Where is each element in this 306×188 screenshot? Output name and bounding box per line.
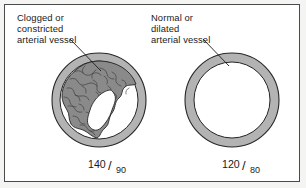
figure-container: Clogged or constricted arterial vessel 1… (0, 0, 306, 188)
normal-vessel-illustration (185, 39, 279, 147)
normal-systolic: 120 (222, 158, 240, 170)
clogged-diastolic: 90 (116, 165, 126, 175)
normal-blood-pressure: 120 / 80 (222, 158, 260, 175)
normal-label-line-2: dilated (151, 23, 179, 34)
normal-label: Normal or dilated arterial vessel (151, 12, 210, 45)
diagram-svg: Clogged or constricted arterial vessel 1… (0, 0, 306, 188)
normal-bp-separator: / (242, 158, 246, 173)
clogged-bp-separator: / (108, 158, 112, 173)
clogged-label-line-1: Clogged or (17, 12, 64, 23)
clogged-label: Clogged or constricted arterial vessel (17, 12, 76, 45)
normal-label-line-1: Normal or (151, 12, 193, 23)
normal-diastolic: 80 (250, 165, 260, 175)
clogged-label-line-3: arterial vessel (17, 34, 76, 45)
normal-vessel-lumen (194, 62, 270, 138)
clogged-blood-pressure: 140 / 90 (88, 158, 126, 175)
normal-label-line-3: arterial vessel (151, 34, 210, 45)
clogged-systolic: 140 (88, 158, 106, 170)
clogged-label-line-2: constricted (17, 23, 63, 34)
clogged-vessel-illustration (52, 39, 146, 147)
